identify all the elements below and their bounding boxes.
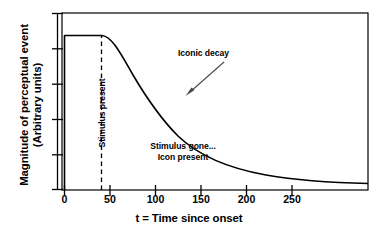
- plot-frame: [62, 13, 368, 190]
- annotation-iconic-decay: Iconic decay: [178, 48, 229, 58]
- x-tick-label-250: 250: [272, 193, 312, 205]
- x-tick-label-150: 150: [181, 193, 221, 205]
- annotation-stimulus-gone: Stimulus gone... Icon present: [135, 141, 231, 163]
- annotation-stimulus-gone-line2: Icon present: [158, 152, 209, 162]
- y-axis-label-line1: Magnitude of perceptual event: [18, 24, 31, 186]
- annotation-stimulus-present: Stimulus present: [97, 65, 107, 161]
- x-tick-label-100: 100: [136, 193, 176, 205]
- x-tick-label-200: 200: [227, 193, 267, 205]
- chart-figure: Magnitude of perceptual event (Arbitrary…: [0, 0, 378, 237]
- x-tick-label-0: 0: [45, 193, 85, 205]
- y-axis-label-line2: (Arbitrary units): [31, 63, 44, 147]
- x-tick-label-50: 50: [90, 193, 130, 205]
- annotation-stimulus-gone-line1: Stimulus gone...: [150, 141, 216, 151]
- y-axis-label: Magnitude of perceptual event (Arbitrary…: [13, 12, 49, 198]
- x-axis-label: t = Time since onset: [0, 212, 378, 224]
